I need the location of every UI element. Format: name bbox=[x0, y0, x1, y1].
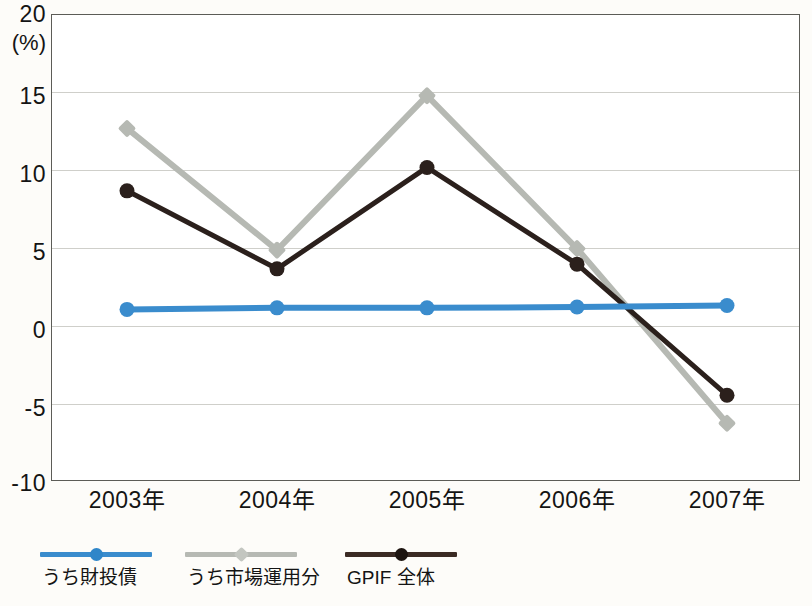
y-axis: 20 (%) 15 10 5 0 -5 -10 bbox=[0, 0, 46, 606]
y-tick-label-20: 20 bbox=[0, 3, 46, 26]
x-tick-label-2006: 2006年 bbox=[507, 487, 647, 513]
y-tick-label-minus-10: -10 bbox=[0, 472, 46, 495]
y-axis-unit-label: (%) bbox=[0, 32, 46, 54]
legend-label-2: GPIF 全体 bbox=[345, 567, 435, 589]
legend-item-gpif-zentai[interactable]: GPIF 全体 bbox=[345, 545, 505, 589]
gridline-minus-5 bbox=[52, 404, 799, 405]
legend-swatch-black bbox=[345, 545, 457, 563]
y-tick-label-minus-5: -5 bbox=[0, 397, 46, 420]
x-tick-label-2003: 2003年 bbox=[57, 487, 197, 513]
x-tick-label-2007: 2007年 bbox=[657, 487, 797, 513]
y-tick-label-15: 15 bbox=[0, 85, 46, 108]
legend-item-uchi-zaitousai[interactable]: うち財投債 bbox=[40, 545, 185, 589]
legend-label-1: うち市場運用分 bbox=[185, 567, 320, 589]
legend-swatch-blue bbox=[40, 545, 152, 563]
y-tick-label-10: 10 bbox=[0, 163, 46, 186]
gridline-10 bbox=[52, 170, 799, 171]
gridline-15 bbox=[52, 92, 799, 93]
legend-swatch-gray bbox=[185, 545, 297, 563]
y-tick-label-0: 0 bbox=[0, 319, 46, 342]
y-tick-label-5: 5 bbox=[0, 241, 46, 264]
chart-legend: うち財投債 うち市場運用分 GPIF 全体 bbox=[40, 545, 505, 589]
legend-item-uchi-shijou-unyoubun[interactable]: うち市場運用分 bbox=[185, 545, 345, 589]
gridline-0 bbox=[52, 326, 799, 327]
x-tick-label-2005: 2005年 bbox=[357, 487, 497, 513]
chart-page: 20 (%) 15 10 5 0 -5 -10 2003年 2004年 2005… bbox=[0, 0, 812, 606]
x-tick-label-2004: 2004年 bbox=[207, 487, 347, 513]
gridline-5 bbox=[52, 248, 799, 249]
plot-area bbox=[51, 14, 800, 481]
legend-label-0: うち財投債 bbox=[40, 567, 137, 589]
